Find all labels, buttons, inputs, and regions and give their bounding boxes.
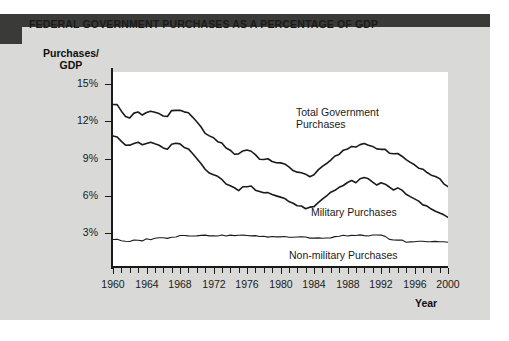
x-axis-tick-label: 1964 [129, 278, 165, 290]
x-axis-tick-mark [373, 268, 374, 273]
x-axis-tick-mark [331, 268, 332, 273]
y-axis-tick-label: 3% [58, 226, 98, 238]
x-axis-tick-mark [415, 268, 416, 274]
series-label-non-military-purchases: Non-military Purchases [289, 249, 398, 261]
title-bar-side-strip [0, 14, 22, 44]
x-axis-tick-mark [281, 268, 282, 274]
x-axis-tick-mark [406, 268, 407, 273]
page-title: FEDERAL GOVERNMENT PURCHASES AS A PERCEN… [29, 18, 378, 30]
y-axis-tick-mark [105, 196, 111, 197]
x-axis-tick-mark [264, 268, 265, 273]
x-axis-tick-label: 1972 [196, 278, 232, 290]
x-axis-tick-mark [398, 268, 399, 273]
line-non-military-purchases [113, 235, 448, 242]
series-label-total-government-purchases: Total Government Purchases [296, 106, 379, 130]
x-axis-tick-mark [222, 268, 223, 273]
x-axis-tick-mark [239, 268, 240, 273]
x-axis-tick-mark [172, 268, 173, 273]
y-axis-tick-label: 6% [58, 189, 98, 201]
x-axis-tick-mark [381, 268, 382, 274]
x-axis-tick-mark [448, 268, 449, 274]
x-axis-tick-mark [147, 268, 148, 274]
y-axis-tick-label: 12% [58, 114, 98, 126]
x-axis-tick-mark [255, 268, 256, 273]
x-axis-tick-mark [121, 268, 122, 273]
y-axis-title-line1: Purchases/ [33, 47, 109, 59]
x-axis-tick-label: 1976 [229, 278, 265, 290]
x-axis-tick-mark [214, 268, 215, 274]
line-military-purchases [113, 136, 448, 217]
x-axis-tick-mark [423, 268, 424, 273]
x-axis-tick-mark [230, 268, 231, 273]
x-axis-tick-mark [364, 268, 365, 273]
x-axis-tick-mark [272, 268, 273, 273]
y-axis-tick-label: 15% [58, 77, 98, 89]
series-label-total-line2: Purchases [296, 118, 379, 130]
x-axis-tick-mark [188, 268, 189, 273]
y-axis-line [111, 68, 113, 269]
x-axis-tick-label: 1968 [162, 278, 198, 290]
x-axis-tick-mark [197, 268, 198, 273]
x-axis-tick-mark [247, 268, 248, 274]
x-axis-tick-mark [348, 268, 349, 274]
x-axis-tick-mark [314, 268, 315, 274]
x-axis-tick-label: 1996 [397, 278, 433, 290]
x-axis-tick-mark [306, 268, 307, 273]
y-axis-tick-mark [105, 84, 111, 85]
x-axis-title: Year [415, 297, 437, 309]
x-axis-tick-label: 1992 [363, 278, 399, 290]
line-total-government-purchases [113, 105, 448, 187]
x-axis-tick-mark [130, 268, 131, 273]
x-axis-tick-label: 1960 [95, 278, 131, 290]
y-axis-title-line2: GDP [33, 59, 109, 71]
series-label-military-purchases: Military Purchases [311, 206, 397, 218]
x-axis-tick-mark [440, 268, 441, 273]
x-axis-tick-mark [163, 268, 164, 273]
x-axis-tick-mark [113, 268, 114, 274]
chart-lines [113, 72, 448, 267]
x-axis-tick-label: 1980 [263, 278, 299, 290]
y-axis-tick-label: 9% [58, 152, 98, 164]
x-axis-tick-mark [297, 268, 298, 273]
y-axis-title: Purchases/ GDP [33, 47, 109, 71]
series-label-total-line1: Total Government [296, 106, 379, 118]
x-axis-tick-mark [356, 268, 357, 273]
x-axis-tick-label: 1984 [296, 278, 332, 290]
y-axis-tick-mark [105, 121, 111, 122]
plot-area [113, 72, 448, 267]
x-axis-tick-label: 2000 [430, 278, 466, 290]
x-axis-tick-mark [180, 268, 181, 274]
y-axis-tick-mark [105, 159, 111, 160]
x-axis-tick-mark [155, 268, 156, 273]
y-axis-tick-mark [105, 233, 111, 234]
x-axis-tick-mark [205, 268, 206, 273]
x-axis-tick-mark [339, 268, 340, 273]
x-axis-tick-mark [138, 268, 139, 273]
x-axis-tick-mark [289, 268, 290, 273]
figure-container: FEDERAL GOVERNMENT PURCHASES AS A PERCEN… [0, 0, 509, 341]
x-axis-tick-label: 1988 [330, 278, 366, 290]
x-axis-tick-mark [389, 268, 390, 273]
x-axis-tick-mark [431, 268, 432, 273]
x-axis-tick-mark [322, 268, 323, 273]
